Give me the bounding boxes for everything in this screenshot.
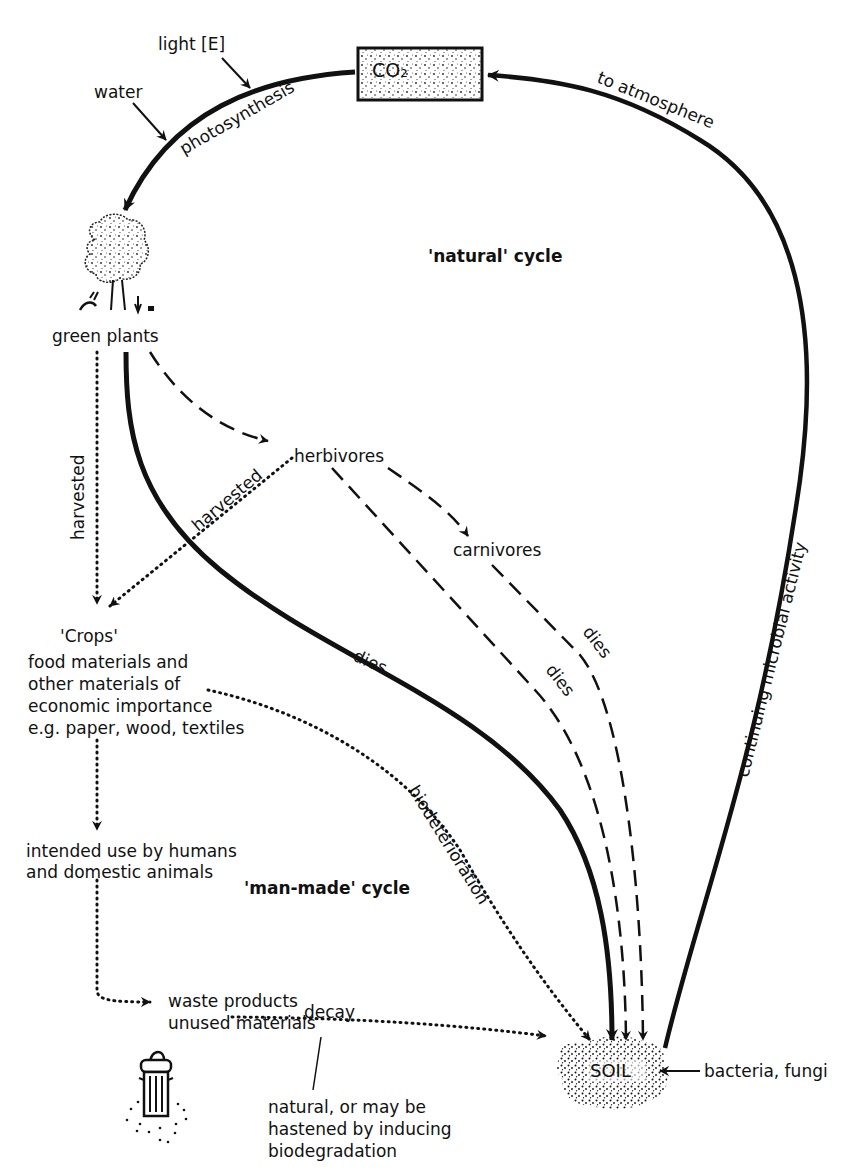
to-atmosphere-arrow [488, 75, 807, 1048]
note-line-1: natural, or may be [268, 1097, 426, 1118]
harvested-vertical-label: harvested [68, 455, 88, 540]
waste-line-2: unused materials [168, 1013, 316, 1034]
herbivores-to-carnivores-arrow [388, 468, 468, 536]
water-label: water [94, 82, 142, 103]
man-made-cycle-label: 'man-made' cycle [244, 878, 410, 899]
continuing-microbial-label: continuing microbial activity [732, 540, 810, 779]
carnivores-dies-label: dies [579, 622, 616, 662]
biodeterioration-arrow [208, 690, 590, 1040]
crops-desc-line-3: economic importance [28, 696, 213, 717]
soil-label: SOIL [590, 1060, 631, 1081]
biodeterioration-label: biodeterioration [405, 782, 494, 908]
waste-line-1: waste products [168, 991, 298, 1012]
trash-can-icon [126, 1052, 188, 1143]
carnivores-dies-arrow [492, 565, 643, 1040]
light-input-arrow [222, 58, 250, 88]
co2-label: CO₂ [372, 60, 408, 81]
photosynthesis-label: photosynthesis [176, 77, 298, 159]
harvested-diagonal-label: harvested [188, 465, 266, 535]
use-to-waste-arrow [97, 880, 150, 1002]
herbivores-dies-label: dies [542, 660, 579, 700]
decay-label: decay [304, 1002, 355, 1023]
crops-title: 'Crops' [60, 626, 118, 647]
intended-use-line-1: intended use by humans [26, 841, 237, 862]
green-plants-label: green plants [52, 326, 159, 347]
crops-desc-line-2: other materials of [28, 674, 180, 695]
light-label: light [E] [158, 34, 225, 55]
photosynthesis-arrow [125, 72, 355, 210]
plants-to-herbivores-arrow [150, 352, 268, 441]
note-line-3: biodegradation [268, 1141, 397, 1162]
carnivores-label: carnivores [453, 540, 541, 561]
crops-desc-line-4: e.g. paper, wood, textiles [28, 718, 244, 739]
note-line-2: hastened by inducing [268, 1119, 452, 1140]
tree-icon [80, 214, 154, 312]
water-input-arrow [133, 103, 166, 140]
intended-use-line-2: and domestic animals [26, 862, 213, 883]
bacteria-fungi-label: bacteria, fungi [704, 1061, 828, 1082]
carbon-cycle-diagram: photosynthesis to atmosphere continuing … [0, 0, 858, 1174]
crops-desc-line-1: food materials and [28, 652, 188, 673]
natural-cycle-label: 'natural' cycle [428, 246, 562, 267]
herbivores-label: herbivores [294, 446, 384, 467]
note-leader-line [313, 1037, 321, 1090]
